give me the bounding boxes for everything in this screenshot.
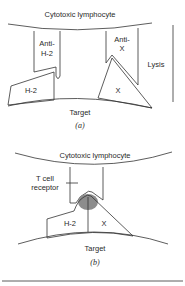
cell-top-label-b: Cytotoxic lymphocyte <box>60 151 131 160</box>
h2-label-a: H-2 <box>25 86 37 95</box>
cell-bottom-label-a: Target <box>70 108 92 117</box>
antigen-complex <box>47 195 133 238</box>
anti-x-label-1: Anti- <box>114 35 130 44</box>
x-label-b: X <box>101 219 106 228</box>
receptor-label-1: T cell <box>36 174 54 183</box>
caption-b: (b) <box>90 258 100 267</box>
anti-x-label-2: X <box>119 44 124 53</box>
anti-h2-label-2: H-2 <box>41 49 53 58</box>
cell-bottom-label-b: Target <box>85 244 107 253</box>
x-label-a: X <box>115 86 120 95</box>
lysis-label: Lysis <box>148 60 165 69</box>
cell-top-label-a: Cytotoxic lymphocyte <box>45 10 116 19</box>
panel-b: Cytotoxic lymphocyte T cell receptor H-2… <box>15 151 172 267</box>
diagram-canvas: Cytotoxic lymphocyte Anti- H-2 Anti- X H… <box>0 0 185 286</box>
anti-h2-label-1: Anti- <box>39 39 55 48</box>
caption-a: (a) <box>75 121 85 130</box>
h2-label-b: H-2 <box>64 219 76 228</box>
panel-a: Cytotoxic lymphocyte Anti- H-2 Anti- X H… <box>8 10 173 130</box>
target-membrane-b <box>18 232 168 244</box>
receptor-label-2: receptor <box>31 183 59 192</box>
